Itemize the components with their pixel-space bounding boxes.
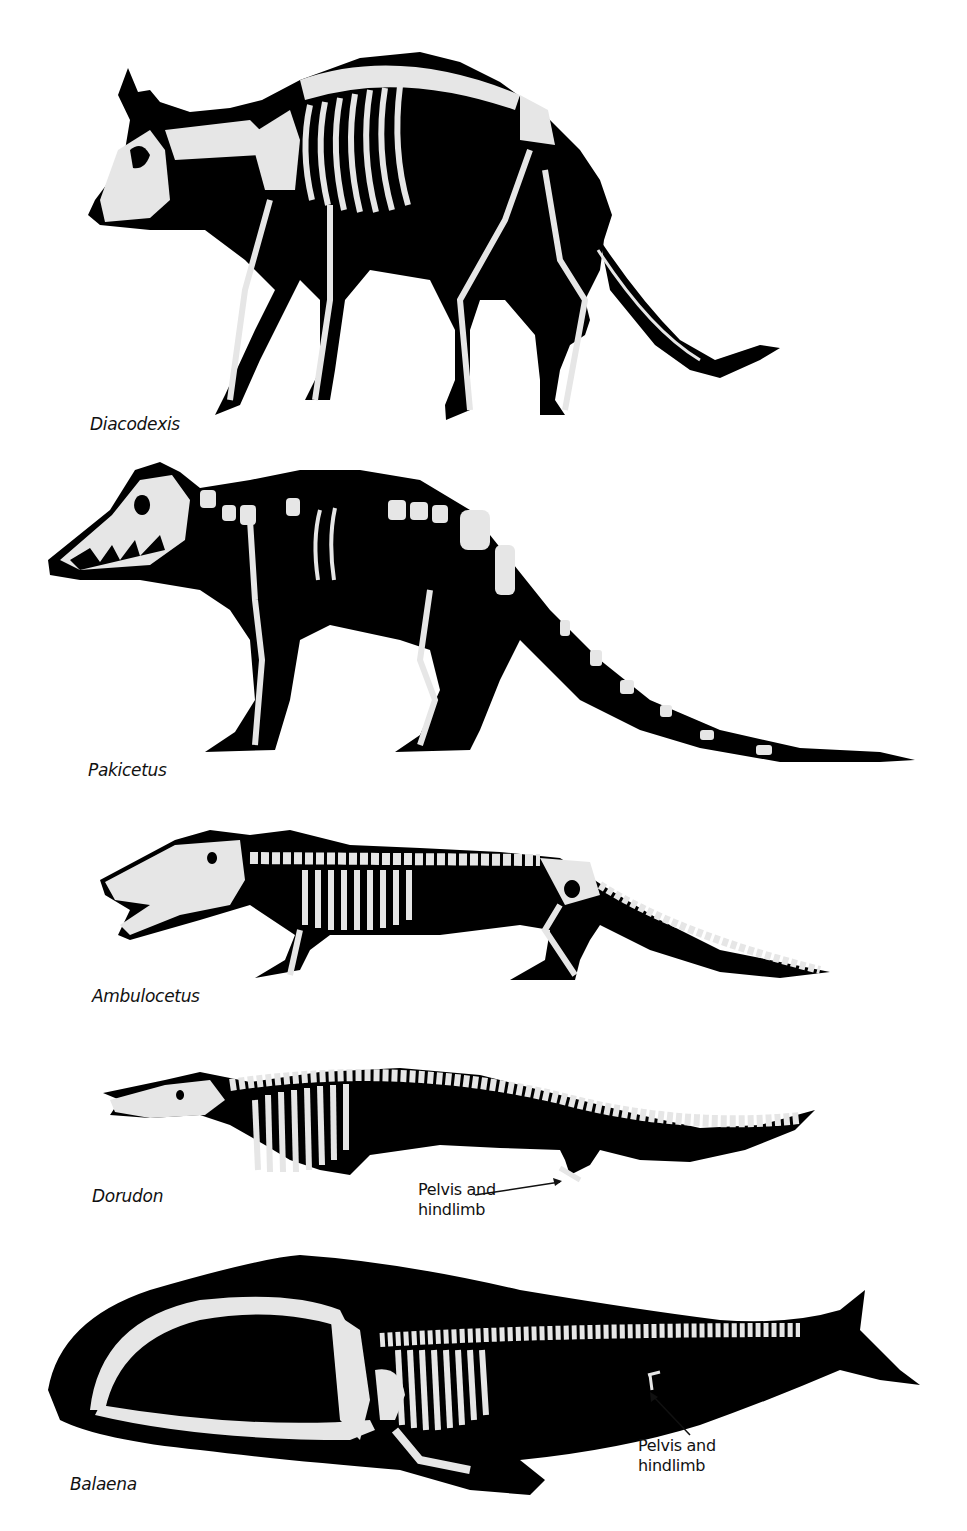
- dorudon-pelvis-callout: Pelvis and hindlimb: [418, 1180, 496, 1220]
- pakicetus-illustration: [48, 462, 915, 762]
- diacodexis-illustration: [88, 52, 780, 420]
- whale-evolution-figure: Diacodexis Pakicetus Ambulocetus Dorudon…: [0, 0, 967, 1531]
- species-label-pakicetus: Pakicetus: [88, 760, 167, 780]
- species-label-balaena: Balaena: [70, 1474, 137, 1494]
- balaena-illustration: [48, 1255, 920, 1495]
- callout-line-2: hindlimb: [418, 1200, 496, 1220]
- species-label-diacodexis: Diacodexis: [90, 414, 180, 434]
- dorudon-illustration: [103, 1068, 815, 1195]
- callout-line-1: Pelvis and: [638, 1436, 716, 1456]
- species-label-ambulocetus: Ambulocetus: [92, 986, 200, 1006]
- balaena-pelvis-callout: Pelvis and hindlimb: [638, 1436, 716, 1476]
- callout-line-1: Pelvis and: [418, 1180, 496, 1200]
- callout-line-2: hindlimb: [638, 1456, 716, 1476]
- species-label-dorudon: Dorudon: [92, 1186, 163, 1206]
- ambulocetus-illustration: [100, 830, 830, 980]
